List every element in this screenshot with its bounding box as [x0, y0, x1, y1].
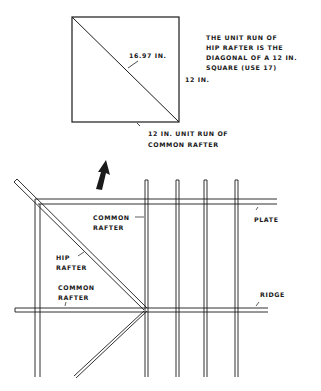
common-rafter-top-label-line2: RAFTER	[93, 224, 124, 231]
common-rafter-left-label-line2: RAFTER	[58, 294, 89, 301]
side-label: 12 IN.	[185, 76, 210, 83]
hip-rafter-label-line2: RAFTER	[56, 264, 87, 271]
bottom-leader	[137, 123, 140, 126]
square-diagonal	[72, 17, 179, 122]
common-rafter-left-label-line1: COMMON	[58, 284, 95, 291]
common-rafter-1	[145, 180, 148, 377]
diagonal-label: 16.97 IN.	[129, 52, 167, 59]
common-rafter-3	[204, 180, 207, 377]
note-line4: SQUARE (USE 17)	[206, 64, 277, 71]
direction-arrow-icon	[96, 160, 110, 190]
ridge-leader	[256, 302, 259, 306]
hip-rafter-label-line1: HIP	[56, 254, 70, 261]
bottom-label-line2: COMMON RAFTER	[148, 141, 219, 148]
framing-plan	[14, 179, 277, 378]
bottom-label-line1: 12 IN. UNIT RUN OF	[148, 130, 228, 137]
note-line3: DIAGONAL OF A 12 IN.	[206, 54, 297, 61]
hip-rafter-lower	[74, 311, 147, 378]
hip-rafter-diagram: 16.97 IN. 12 IN. 12 IN. UNIT RUN OF COMM…	[0, 0, 321, 391]
common-rafter-left-leader	[65, 302, 66, 306]
hip-rafter-leader	[78, 252, 84, 256]
common-rafter-2	[176, 180, 179, 377]
note-line1: THE UNIT RUN OF	[206, 34, 277, 41]
left-common-rafter	[35, 199, 40, 377]
common-rafter-top-label-line1: COMMON	[93, 214, 130, 221]
unit-run-square	[72, 17, 179, 126]
ridge	[15, 308, 268, 312]
note-line2: HIP RAFTER IS THE	[206, 44, 283, 51]
plate-leader	[256, 207, 258, 210]
plate	[35, 199, 277, 204]
diagonal-leader	[128, 61, 138, 68]
ridge-label: RIDGE	[260, 291, 285, 298]
plate-label: PLATE	[254, 216, 279, 223]
common-rafter-4	[235, 180, 238, 377]
